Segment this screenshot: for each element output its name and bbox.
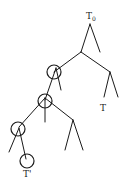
subtree-t-label: T (100, 103, 106, 113)
circled-node-4 (20, 154, 34, 168)
root-label: T0 (86, 11, 96, 22)
subtree-t-edges (104, 72, 118, 97)
circled-node-3 (11, 122, 25, 136)
node-1-edges (54, 52, 110, 72)
circle-2-edges (19, 98, 73, 127)
leaf-subtree-label: T' (23, 169, 31, 179)
subtree-c2-right-edges (65, 120, 83, 150)
tree-diagram: T0 T T' (0, 0, 127, 190)
root-edges (81, 24, 100, 52)
